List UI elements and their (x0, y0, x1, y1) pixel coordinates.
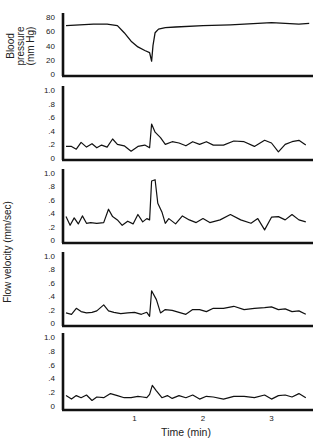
y-tick-label: .6 (48, 279, 55, 288)
x-axis-label: Time (min) (161, 426, 211, 438)
y-tick-label: 0 (51, 319, 56, 328)
panels: 806040200Bloodpressure(mm Hg)1.0.8.6.4.2… (5, 13, 313, 423)
y-tick-label: 0 (51, 70, 56, 79)
y-tick-label: .6 (48, 196, 55, 205)
y-tick-label: 1.0 (44, 333, 56, 342)
y-tick-label: .6 (48, 113, 55, 122)
panel-flow-velocity-3: 1.0.8.6.4.20 (44, 252, 313, 328)
y-axis-label-flow-velocity: Flow velocity (mm/sec) (2, 201, 13, 303)
y-tick-label: 1.0 (44, 86, 56, 95)
panel-flow-velocity-4: 1.0.8.6.4.20 (44, 333, 313, 411)
y-axis-label-blood-pressure: (mm Hg) (25, 27, 36, 66)
y-tick-label: 80 (46, 13, 55, 22)
x-tick-label: 2 (201, 414, 206, 423)
chart-figure: 806040200Bloodpressure(mm Hg)1.0.8.6.4.2… (0, 0, 324, 448)
x-tick-label: 3 (269, 414, 274, 423)
y-tick-label: 40 (46, 42, 55, 51)
panel-flow-velocity-1: 1.0.8.6.4.20 (44, 86, 313, 163)
panel-blood-pressure: 806040200Bloodpressure(mm Hg) (5, 13, 313, 79)
y-tick-label: .4 (48, 209, 55, 218)
panel-flow-velocity-2: 1.0.8.6.4.20 (44, 169, 313, 245)
data-series-line (66, 180, 306, 230)
y-tick-label: 1.0 (44, 169, 56, 178)
y-tick-label: .8 (48, 347, 55, 356)
y-tick-label: 0 (51, 402, 56, 411)
y-tick-label: 1.0 (44, 252, 56, 261)
y-tick-label: .8 (48, 100, 55, 109)
data-series-line (66, 291, 306, 317)
y-tick-label: 20 (46, 56, 55, 65)
y-tick-label: 60 (46, 27, 55, 36)
data-series-line (66, 385, 306, 400)
y-tick-label: .4 (48, 292, 55, 301)
y-tick-label: .4 (48, 374, 55, 383)
y-tick-label: .2 (48, 140, 55, 149)
y-tick-label: .2 (48, 388, 55, 397)
y-tick-label: 0 (51, 236, 56, 245)
data-series-line (66, 23, 309, 62)
data-series-line (66, 124, 306, 152)
y-tick-label: .2 (48, 306, 55, 315)
y-tick-label: .4 (48, 127, 55, 136)
y-tick-label: 0 (51, 154, 56, 163)
y-tick-label: .6 (48, 361, 55, 370)
y-tick-label: .2 (48, 223, 55, 232)
y-tick-label: .8 (48, 182, 55, 191)
x-tick-label: 1 (132, 414, 137, 423)
y-tick-label: .8 (48, 265, 55, 274)
